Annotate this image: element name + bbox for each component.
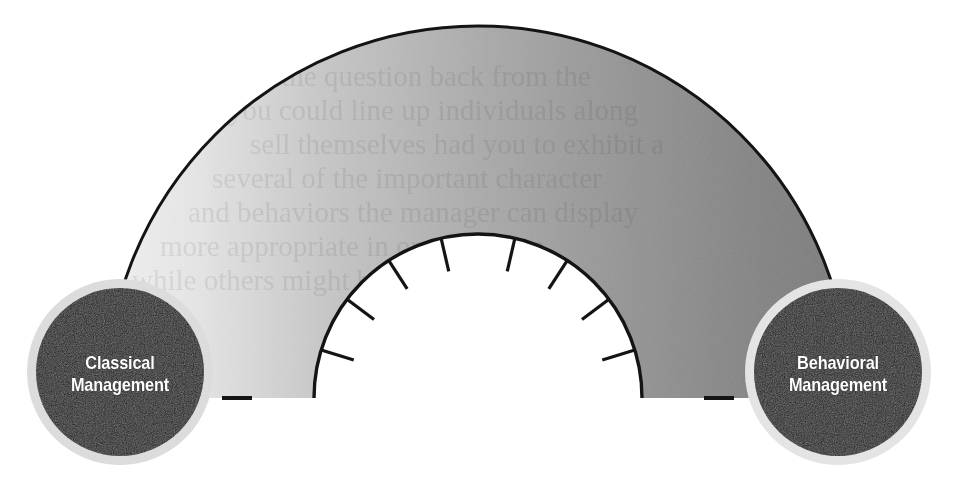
scale-tick [582,299,609,319]
ghost-line: several of the important character [212,162,602,194]
gauge-band-group: swers the question back from the you cou… [106,26,850,398]
scale-tick [347,299,374,319]
node-circle [754,288,922,456]
scale-tick [441,238,449,271]
scale-tick [321,350,354,360]
scale-tick [602,350,635,360]
ghost-line: sell themselves had you to exhibit a [250,128,664,160]
node-classical-management[interactable] [27,279,213,465]
continuum-gauge-diagram: swers the question back from the you cou… [0,0,955,503]
scale-tick [549,260,568,289]
scale-tick [507,238,515,271]
diagram-canvas: swers the question back from the you cou… [0,0,955,503]
ghost-line: while others might be the best [132,264,481,296]
ghost-line: swers the question back from the [208,60,591,92]
node-behavioral-management[interactable] [745,279,931,465]
node-circle [36,288,204,456]
ghost-line: and behaviors the manager can display [188,196,639,228]
scale-tick [389,260,408,289]
ghost-line: you could line up individuals along [228,94,638,126]
